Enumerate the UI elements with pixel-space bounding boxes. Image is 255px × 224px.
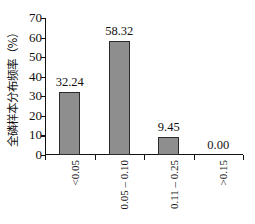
x-tick-label: 0.05 – 0.10 bbox=[119, 160, 130, 210]
x-tick-label-slot: <0.05 bbox=[45, 158, 95, 224]
bar-chart: 全磷样本分布频率（%） 70 60 50 40 30 20 10 0 32.24… bbox=[0, 0, 255, 224]
y-tick-mark bbox=[41, 135, 45, 136]
x-tick-label-slot: 0.05 – 0.10 bbox=[95, 158, 145, 224]
bar-value-label: 58.32 bbox=[95, 25, 145, 38]
y-tick-label: 20 bbox=[16, 109, 42, 122]
y-tick-label: 70 bbox=[16, 11, 42, 24]
x-tick-label-slot: >0.15 bbox=[194, 158, 244, 224]
x-axis-tick-labels: <0.050.05 – 0.100.11 – 0.25>0.15 bbox=[45, 158, 243, 224]
y-tick-label: 60 bbox=[16, 31, 42, 44]
bars-layer: 32.2458.329.450.00 bbox=[45, 18, 243, 155]
y-tick-mark bbox=[41, 96, 45, 97]
bar bbox=[59, 92, 80, 155]
y-tick-label: 10 bbox=[16, 128, 42, 141]
x-tick-label: >0.15 bbox=[218, 160, 229, 185]
bar-value-label: 9.45 bbox=[144, 121, 194, 134]
bar-value-label: 0.00 bbox=[194, 139, 244, 152]
bar bbox=[158, 137, 179, 155]
y-tick-mark bbox=[41, 57, 45, 58]
y-tick-label: 50 bbox=[16, 50, 42, 63]
bar-value-label: 32.24 bbox=[45, 76, 95, 89]
plot-area: 32.2458.329.450.00 bbox=[45, 18, 243, 155]
y-tick-mark bbox=[41, 18, 45, 19]
y-tick-mark bbox=[41, 38, 45, 39]
y-tick-label: 30 bbox=[16, 89, 42, 102]
y-tick-mark bbox=[41, 77, 45, 78]
x-tick-label-slot: 0.11 – 0.25 bbox=[144, 158, 194, 224]
x-tick-label: 0.11 – 0.25 bbox=[169, 160, 180, 209]
y-tick-mark bbox=[41, 116, 45, 117]
y-tick-label: 40 bbox=[16, 70, 42, 83]
x-tick-mark bbox=[243, 155, 244, 160]
y-axis-tick-labels: 70 60 50 40 30 20 10 0 bbox=[16, 0, 42, 224]
x-tick-label: <0.05 bbox=[70, 160, 81, 185]
bar bbox=[109, 41, 130, 155]
y-tick-label: 0 bbox=[16, 148, 42, 161]
